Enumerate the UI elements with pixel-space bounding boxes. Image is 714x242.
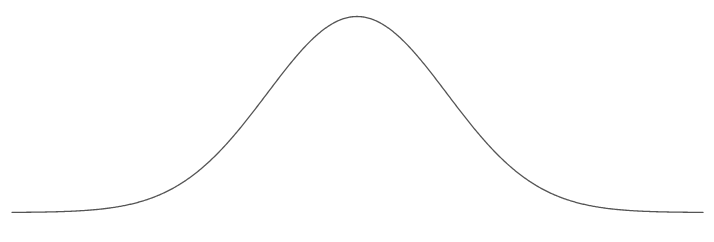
chart-canvas <box>0 0 714 242</box>
bell-curve-plot <box>0 0 714 242</box>
gaussian-curve-line <box>12 17 703 213</box>
